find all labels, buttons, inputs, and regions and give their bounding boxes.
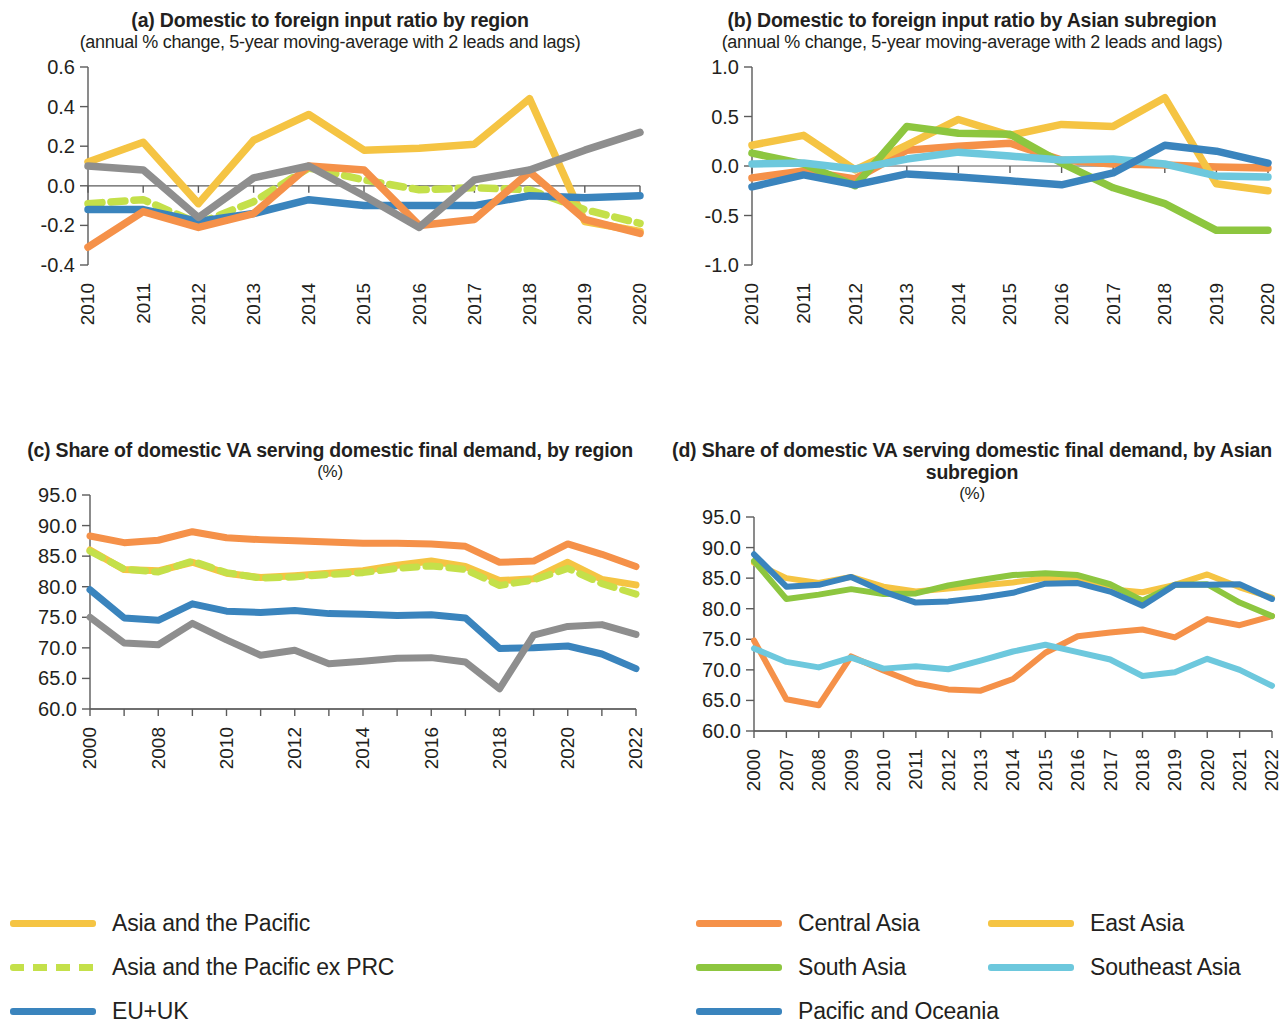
panel_d-xtick: 2000: [743, 749, 764, 791]
panel-d-plot: 60.065.070.075.080.085.090.095.020002007…: [660, 503, 1284, 847]
panel_d-xtick: 2012: [938, 749, 959, 791]
panel_b-xtick: 2019: [1206, 283, 1227, 325]
panel_d-xtick: 2010: [873, 749, 894, 791]
panel_a-ytick: -0.2: [41, 214, 75, 236]
panel_c-ytick: 75.0: [38, 607, 77, 629]
legend-swatch-icon: [696, 920, 782, 927]
legend-label: East Asia: [1090, 910, 1184, 937]
legend-item[interactable]: South Asia: [696, 945, 988, 989]
legend-label: Southeast Asia: [1090, 954, 1241, 981]
panel_a-xtick: 2020: [629, 283, 650, 325]
panel-a-title: (a) Domestic to foreign input ratio by r…: [0, 10, 660, 32]
panel_d-ytick: 80.0: [702, 598, 741, 620]
panel_d-ytick: 75.0: [702, 628, 741, 650]
panel-a-subtitle: (annual % change, 5-year moving-average …: [0, 32, 660, 53]
panel_d-xtick: 2016: [1067, 749, 1088, 791]
panel_a-xtick: 2013: [243, 283, 264, 325]
legend-label: Asia and the Pacific: [112, 910, 310, 937]
panel_b-xtick: 2014: [948, 282, 969, 325]
panel_d-ytick: 90.0: [702, 537, 741, 559]
panel_a-xtick: 2010: [77, 283, 98, 325]
panel_a-xtick: 2018: [519, 283, 540, 325]
panel-c-subtitle: (%): [0, 462, 660, 482]
panel-a: (a) Domestic to foreign input ratio by r…: [0, 0, 660, 430]
legend-item[interactable]: Central Asia: [696, 901, 988, 945]
legend-item[interactable]: East Asia: [988, 901, 1280, 945]
panel_c-xtick: 2008: [148, 727, 169, 769]
panel_b-ytick: -1.0: [705, 254, 739, 276]
panel_c-xtick: 2022: [625, 727, 646, 769]
panel_a-svg: -0.4-0.20.00.20.40.620102011201220132014…: [0, 53, 660, 383]
panel-c: (c) Share of domestic VA serving domesti…: [0, 430, 660, 895]
panel_a-xtick: 2017: [464, 283, 485, 325]
panel_a-xtick: 2015: [353, 283, 374, 325]
legend-item[interactable]: Southeast Asia: [988, 945, 1280, 989]
legend-item[interactable]: Pacific and Oceania: [696, 989, 988, 1033]
panel_c-xtick: 2010: [216, 727, 237, 769]
legend-swatch-icon: [988, 964, 1074, 971]
legend-label: South Asia: [798, 954, 906, 981]
panel_d-xtick: 2007: [776, 749, 797, 791]
panel-a-plot: -0.4-0.20.00.20.40.620102011201220132014…: [0, 53, 660, 387]
panel_d-ytick: 85.0: [702, 567, 741, 589]
panel_c-svg: 60.065.070.075.080.085.090.095.020002008…: [0, 481, 660, 821]
panel_a-xtick: 2016: [409, 283, 430, 325]
panel_b-ytick: 1.0: [711, 56, 739, 78]
panel-d-subtitle: (%): [660, 484, 1284, 504]
legend-swatch-icon: [696, 1008, 782, 1015]
series-line: [90, 618, 636, 690]
panel_d-xtick: 2018: [1132, 749, 1153, 791]
panel_a-xtick: 2012: [188, 283, 209, 325]
panel_d-ytick: 60.0: [702, 720, 741, 742]
panel_b-ytick: 0.5: [711, 105, 739, 127]
panel_c-ytick: 85.0: [38, 546, 77, 568]
panel_c-ytick: 80.0: [38, 576, 77, 598]
legend-item[interactable]: Asia and the Pacific: [10, 901, 345, 945]
panel_a-ytick: 0.4: [47, 95, 75, 117]
panel_a-xtick: 2014: [298, 282, 319, 325]
panel_d-ytick: 65.0: [702, 690, 741, 712]
panel_b-ytick: 0.0: [711, 155, 739, 177]
series-line: [90, 532, 636, 567]
panel-d: (d) Share of domestic VA serving domesti…: [660, 430, 1284, 895]
panel_d-xtick: 2009: [841, 749, 862, 791]
panel-c-title: (c) Share of domestic VA serving domesti…: [0, 440, 660, 462]
panel_d-xtick: 2020: [1197, 749, 1218, 791]
panel_a-ytick: 0.6: [47, 56, 75, 78]
panel_c-xtick: 2020: [557, 727, 578, 769]
legend-label: Central Asia: [798, 910, 920, 937]
panel_b-xtick: 2016: [1051, 283, 1072, 325]
panel_c-ytick: 60.0: [38, 698, 77, 720]
panel_c-xtick: 2016: [421, 727, 442, 769]
legend-swatch-icon: [696, 964, 782, 971]
panel_c-xtick: 2012: [284, 727, 305, 769]
panel_d-xtick: 2013: [970, 749, 991, 791]
panel_d-ytick: 70.0: [702, 659, 741, 681]
panel_d-svg: 60.065.070.075.080.085.090.095.020002007…: [660, 503, 1284, 843]
legend-regions: Asia and the PacificAsia and the Pacific…: [0, 895, 660, 1033]
panel_b-xtick: 2013: [896, 283, 917, 325]
panel_c-ytick: 95.0: [38, 484, 77, 506]
panel-c-plot: 60.065.070.075.080.085.090.095.020002008…: [0, 481, 660, 825]
panel-b-subtitle: (annual % change, 5-year moving-average …: [660, 32, 1284, 53]
figure-grid: (a) Domestic to foreign input ratio by r…: [0, 0, 1284, 1033]
panel-d-title: (d) Share of domestic VA serving domesti…: [660, 440, 1284, 484]
panel_b-xtick: 2020: [1257, 283, 1278, 325]
panel_c-xtick: 2014: [352, 727, 373, 770]
legend-swatch-icon: [10, 964, 96, 971]
panel_b-xtick: 2012: [845, 283, 866, 325]
panel_b-xtick: 2017: [1103, 283, 1124, 325]
legend-item[interactable]: EU+UK: [10, 989, 345, 1033]
panel_c-xtick: 2000: [79, 727, 100, 769]
panel_c-ytick: 65.0: [38, 668, 77, 690]
panel_b-xtick: 2011: [793, 283, 814, 324]
panel_d-xtick: 2015: [1035, 749, 1056, 791]
panel_d-xtick: 2022: [1261, 749, 1282, 791]
series-line: [90, 550, 636, 585]
legend-swatch-icon: [10, 920, 96, 927]
legend-subregions: Central AsiaEast AsiaSouth AsiaSoutheast…: [660, 895, 1284, 1033]
panel_b-xtick: 2018: [1154, 283, 1175, 325]
panel_d-xtick: 2011: [905, 749, 926, 790]
legend-label: EU+UK: [112, 998, 188, 1025]
legend-item[interactable]: Asia and the Pacific ex PRC: [10, 945, 345, 989]
